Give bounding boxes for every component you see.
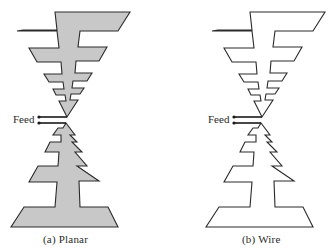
feed-terminal-top [232,115,235,118]
caption-wire: (b) Wire [242,233,281,245]
feed-terminal-top [37,115,40,118]
wire-lower-element [206,123,313,227]
feed-label-planar: Feed [13,113,34,125]
feed-terminal-bottom [232,121,235,124]
antenna-figure [0,0,332,251]
caption-planar: (a) Planar [43,233,88,245]
planar-lower-element [11,123,118,227]
planar-upper-element [17,12,130,117]
feed-label-wire: Feed [208,113,229,125]
wire-upper-element [212,12,325,117]
feed-terminal-bottom [37,121,40,124]
